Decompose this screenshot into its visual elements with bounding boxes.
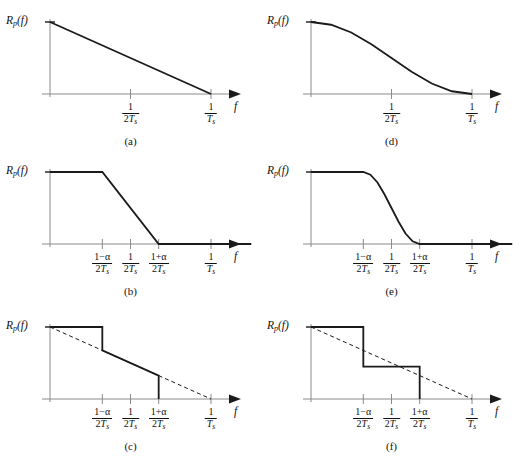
- x-axis-label: f: [495, 100, 498, 112]
- x-tick-label-full_rate: 1Ts: [466, 407, 478, 430]
- x-axis-arrow-icon: [229, 395, 241, 404]
- panel-caption-d: (d): [261, 135, 522, 147]
- panel-a: Rp(f)f12Ts1Ts(a): [0, 0, 261, 150]
- x-tick-label-lower_edge: 1−α2Ts: [353, 407, 373, 430]
- x-tick-label-half_rate: 12Ts: [122, 252, 139, 275]
- x-tick-label-upper_edge: 1+α2Ts: [410, 407, 430, 430]
- series-reference-triangle: [311, 327, 472, 399]
- y-axis-label: Rp(f): [6, 319, 28, 333]
- panel-caption-b: (b): [0, 285, 261, 297]
- panel-d: Rp(f)f12Ts1Ts(d): [261, 0, 522, 150]
- x-axis-label: f: [234, 100, 237, 112]
- series-trapezoidal: [50, 172, 251, 244]
- y-axis-label: Rp(f): [6, 164, 28, 178]
- panel-e: Rp(f)f1−α2Ts12Ts1+α2Ts1Ts(e): [261, 150, 522, 300]
- panel-c: Rp(f)f1−α2Ts12Ts1+α2Ts1Ts(c): [0, 305, 261, 455]
- x-tick-label-full_rate: 1Ts: [205, 252, 217, 275]
- x-tick-label-lower_edge: 1−α2Ts: [353, 252, 373, 275]
- series-two-level-staircase: [311, 327, 420, 399]
- y-axis-label: Rp(f): [267, 14, 289, 28]
- panel-caption-a: (a): [0, 135, 261, 147]
- x-tick-label-lower_edge: 1−α2Ts: [92, 407, 112, 430]
- x-tick-label-lower_edge: 1−α2Ts: [92, 252, 112, 275]
- series-raised-cosine-rolloff: [311, 172, 512, 244]
- x-axis-label: f: [495, 250, 498, 262]
- y-axis-label: Rp(f): [267, 319, 289, 333]
- x-tick-label-upper_edge: 1+α2Ts: [149, 252, 169, 275]
- x-tick-label-half_rate: 12Ts: [122, 102, 139, 125]
- panel-f: Rp(f)f1−α2Ts12Ts1+α2Ts1Ts(f): [261, 305, 522, 455]
- panel-caption-c: (c): [0, 440, 261, 452]
- x-tick-label-half_rate: 12Ts: [383, 102, 400, 125]
- x-tick-label-half_rate: 12Ts: [383, 407, 400, 430]
- x-tick-label-upper_edge: 1+α2Ts: [410, 252, 430, 275]
- figure-container: Rp(f)f12Ts1Ts(a)Rp(f)f1−α2Ts12Ts1+α2Ts1T…: [0, 0, 522, 460]
- y-axis-label: Rp(f): [6, 14, 28, 28]
- x-tick-label-half_rate: 12Ts: [122, 407, 139, 430]
- panel-b: Rp(f)f1−α2Ts12Ts1+α2Ts1Ts(b): [0, 150, 261, 300]
- series-triangular: [50, 22, 211, 94]
- x-axis-label: f: [495, 405, 498, 417]
- x-axis-arrow-icon: [490, 90, 502, 99]
- x-tick-label-upper_edge: 1+α2Ts: [149, 407, 169, 430]
- series-stepped-triangular: [50, 327, 159, 399]
- x-axis-label: f: [234, 250, 237, 262]
- x-axis-arrow-icon: [490, 395, 502, 404]
- x-tick-label-half_rate: 12Ts: [383, 252, 400, 275]
- panel-caption-f: (f): [261, 440, 522, 452]
- x-tick-label-full_rate: 1Ts: [466, 252, 478, 275]
- y-axis-label: Rp(f): [267, 164, 289, 178]
- series-raised-cosine: [311, 22, 472, 94]
- x-tick-label-full_rate: 1Ts: [205, 407, 217, 430]
- x-axis-label: f: [234, 405, 237, 417]
- x-axis-arrow-icon: [229, 90, 241, 99]
- panel-caption-e: (e): [261, 285, 522, 297]
- x-tick-label-full_rate: 1Ts: [466, 102, 478, 125]
- x-tick-label-full_rate: 1Ts: [205, 102, 217, 125]
